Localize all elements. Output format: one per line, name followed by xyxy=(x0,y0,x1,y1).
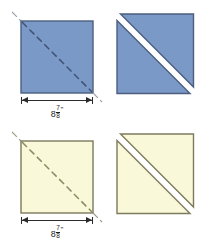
blue-square-marked-graphic xyxy=(6,8,102,108)
cut-line-overshoot-bottom xyxy=(93,213,102,222)
dimension-unit-cream: " xyxy=(60,225,63,234)
panel-cream-square-cut xyxy=(113,128,205,224)
blue-square-cut-graphic xyxy=(113,8,205,104)
dimension-rule xyxy=(21,220,93,221)
dimension-label-blue: 878" xyxy=(21,105,93,119)
cream-square-cut-graphic xyxy=(113,128,205,224)
panel-cream-square-marked: 878" xyxy=(6,128,102,234)
panel-blue-square-marked: 878" xyxy=(6,8,102,108)
panel-blue-square-cut xyxy=(113,8,205,104)
cut-line-overshoot-bottom xyxy=(93,93,102,102)
dimension-label-cream: 878" xyxy=(21,225,93,239)
dimension-unit-blue: " xyxy=(60,105,63,114)
dimension-arrow-left-icon xyxy=(22,97,28,103)
diagram-canvas: 878" 878" xyxy=(0,0,209,242)
dimension-arrow-right-icon xyxy=(86,97,92,103)
dimension-cream: 878" xyxy=(21,217,93,228)
dimension-arrow-right-icon xyxy=(86,217,92,223)
dimension-arrow-left-icon xyxy=(22,217,28,223)
dimension-blue: 878" xyxy=(21,97,93,108)
dimension-rule xyxy=(21,100,93,101)
